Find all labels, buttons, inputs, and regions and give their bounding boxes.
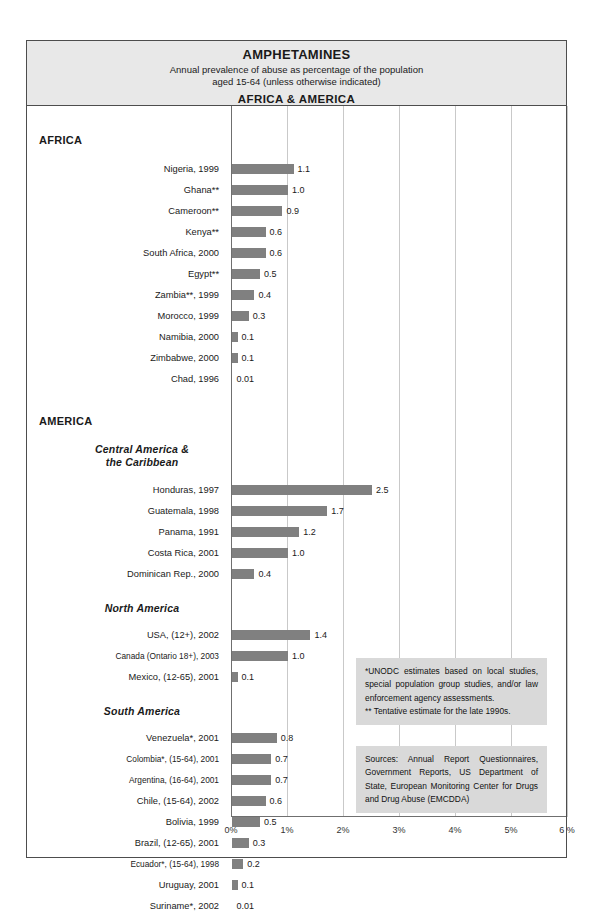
bar: [232, 332, 238, 342]
bar-row: Honduras, 19972.5: [27, 483, 566, 497]
chart-subtitle-line-2: aged 15-64 (unless otherwise indicated): [27, 76, 566, 88]
bar-value-label: 0.4: [258, 288, 271, 302]
bar-row: Egypt**0.5: [27, 267, 566, 281]
bar-row-label: Egypt**: [29, 267, 219, 281]
group-heading-america: AMERICA: [39, 415, 92, 427]
bar-row-label: Morocco, 1999: [29, 309, 219, 323]
bar-row-label: Guatemala, 1998: [29, 504, 219, 518]
note-sources-text: Sources: Annual Report Questionnaires, G…: [365, 753, 538, 806]
bar-row-label: South Africa, 2000: [29, 246, 219, 260]
subgroup-heading-south-america: South America: [57, 705, 227, 718]
bar-row-label: Namibia, 2000: [29, 330, 219, 344]
bar-value-label: 0.4: [258, 567, 271, 581]
bar-row-label: Zimbabwe, 2000: [29, 351, 219, 365]
bar-row-label: Canada (Ontario 18+), 2003: [29, 649, 219, 663]
bar-value-label: 1.0: [292, 183, 305, 197]
bar-row: Suriname*, 20020.01: [27, 899, 566, 913]
bar-row-label: Brazil, (12-65), 2001: [29, 836, 219, 850]
bar-value-label: 0.7: [275, 752, 288, 766]
bar-value-label: 0.5: [264, 815, 277, 829]
bar-row-label: USA, (12+), 2002: [29, 628, 219, 642]
bar-value-label: 0.6: [270, 246, 283, 260]
bar: [232, 630, 310, 640]
bar-value-label: 1.0: [292, 649, 305, 663]
chart-header: AMPHETAMINES Annual prevalence of abuse …: [27, 41, 566, 106]
bar: [232, 569, 254, 579]
bar-value-label: 0.01: [237, 899, 255, 913]
bar-row-label: Cameroon**: [29, 204, 219, 218]
bar: [232, 185, 288, 195]
bar-value-label: 1.2: [303, 525, 316, 539]
bar: [232, 527, 299, 537]
bar-row-label: Chile, (15-64), 2002: [29, 794, 219, 808]
bar-row: Guatemala, 19981.7: [27, 504, 566, 518]
bar: [232, 775, 271, 785]
bar-value-label: 0.3: [253, 836, 266, 850]
bar-row: Nigeria, 19991.1: [27, 162, 566, 176]
chart-subtitle-line-1: Annual prevalence of abuse as percentage…: [27, 64, 566, 76]
bar-value-label: 0.1: [242, 330, 255, 344]
bar: [232, 506, 327, 516]
bar: [232, 672, 238, 682]
bar-row-label: Ghana**: [29, 183, 219, 197]
bar: [232, 485, 372, 495]
bar: [232, 859, 243, 869]
bar: [232, 164, 294, 174]
bar: [232, 206, 282, 216]
bar: [232, 269, 260, 279]
bar-row: Zimbabwe, 20000.1: [27, 351, 566, 365]
bar: [232, 248, 266, 258]
bar: [232, 817, 260, 827]
bar: [232, 548, 288, 558]
bar-row: Venezuela*, 20010.8: [27, 731, 566, 745]
chart-frame: AMPHETAMINES Annual prevalence of abuse …: [26, 40, 567, 858]
bar-value-label: 1.7: [331, 504, 344, 518]
gridline-6pct: [567, 106, 568, 817]
bar-row: Namibia, 20000.1: [27, 330, 566, 344]
bar-value-label: 0.6: [270, 225, 283, 239]
bar-value-label: 0.5: [264, 267, 277, 281]
note-sources: Sources: Annual Report Questionnaires, G…: [356, 746, 547, 813]
bar-row: Brazil, (12-65), 20010.3: [27, 836, 566, 850]
note-estimates: *UNODC estimates based on local studies,…: [356, 658, 547, 725]
bar-row: Zambia**, 19990.4: [27, 288, 566, 302]
chart-title: AMPHETAMINES: [27, 47, 566, 62]
bar-row-label: Colombia*, (15-64), 2001: [29, 752, 219, 766]
bar-row: Bolivia, 19990.5: [27, 815, 566, 829]
bar: [232, 754, 271, 764]
bar-value-label: 0.1: [242, 878, 255, 892]
bar-value-label: 0.9: [286, 204, 299, 218]
bar-row-label: Dominican Rep., 2000: [29, 567, 219, 581]
bar-row-label: Suriname*, 2002: [29, 899, 219, 913]
bar-value-label: 2.5: [376, 483, 389, 497]
chart-region-title: AFRICA & AMERICA: [27, 93, 566, 105]
bar-row-label: Bolivia, 1999: [29, 815, 219, 829]
group-heading-africa: AFRICA: [39, 134, 82, 146]
bar-row-label: Venezuela*, 2001: [29, 731, 219, 745]
note-estimates-line-1: *UNODC estimates based on local studies,…: [365, 665, 538, 705]
bar-row: Kenya**0.6: [27, 225, 566, 239]
bar: [232, 838, 249, 848]
bar-row: Cameroon**0.9: [27, 204, 566, 218]
bar-row: Uruguay, 20010.1: [27, 878, 566, 892]
bar-value-label: 0.2: [247, 857, 260, 871]
bar-value-label: 0.1: [242, 351, 255, 365]
bar-value-label: 0.01: [237, 372, 255, 386]
bar: [232, 880, 238, 890]
bar-row: USA, (12+), 20021.4: [27, 628, 566, 642]
bar-row-label: Mexico, (12-65), 2001: [29, 670, 219, 684]
bar-row: Ecuador*, (15-64), 19980.2: [27, 857, 566, 871]
bar-row-label: Costa Rica, 2001: [29, 546, 219, 560]
bar-row-label: Panama, 1991: [29, 525, 219, 539]
bar: [232, 733, 277, 743]
bar-row-label: Uruguay, 2001: [29, 878, 219, 892]
bar-value-label: 0.7: [275, 773, 288, 787]
bar-row-label: Chad, 1996: [29, 372, 219, 386]
bar-row: Morocco, 19990.3: [27, 309, 566, 323]
bar-value-label: 0.8: [281, 731, 294, 745]
bar: [232, 651, 288, 661]
bar: [232, 796, 266, 806]
bar: [232, 290, 254, 300]
bar-row-label: Zambia**, 1999: [29, 288, 219, 302]
bar: [232, 353, 238, 363]
